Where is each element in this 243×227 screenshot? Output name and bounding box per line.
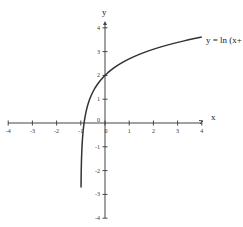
x-tick-label: -2 [54, 128, 59, 134]
y-tick-label: 2 [97, 72, 100, 78]
x-tick-label: 2 [152, 128, 155, 134]
x-tick-label: -4 [6, 128, 11, 134]
y-tick-label: 1 [97, 96, 100, 102]
x-axis-label: x [211, 112, 216, 122]
x-tick-label: 1 [128, 128, 131, 134]
y-tick-label: -1 [95, 144, 100, 150]
y-tick-label: 3 [97, 49, 100, 55]
y-tick-label: 4 [97, 25, 100, 31]
x-tick-label: -3 [30, 128, 35, 134]
x-tick-label: 3 [176, 128, 179, 134]
y-tick-label: -2 [95, 168, 100, 174]
y-tick-label: -3 [95, 191, 100, 197]
y-tick-label: -4 [95, 215, 100, 221]
y-axis-arrow-icon [103, 21, 107, 25]
y-tick-label: 0 [97, 117, 100, 123]
x-tick-label: 4 [200, 128, 203, 134]
equation-label: y = ln (x+ [206, 35, 242, 45]
function-curve [81, 37, 202, 187]
y-axis: 43210-1-2-3-4 [95, 21, 108, 221]
y-axis-label: y [102, 7, 107, 17]
chart-canvas: -4-3-2-101234 43210-1-2-3-4 x y y = ln (… [0, 0, 243, 227]
